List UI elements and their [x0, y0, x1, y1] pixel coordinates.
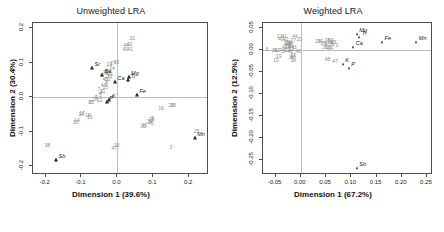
x-tick-label: 0.1: [148, 179, 156, 185]
x-tick-label: 0.2: [184, 179, 192, 185]
x-tick-label: 0.15: [370, 179, 382, 185]
sample-point-label: 12: [97, 97, 103, 103]
element-marker: [90, 66, 94, 70]
y-tick-label: 0.1: [18, 55, 24, 69]
sample-point-label: 31: [129, 35, 135, 41]
element-label: Mn: [197, 131, 205, 137]
sample-point-label: 3: [335, 42, 338, 48]
element-marker: [415, 40, 417, 43]
x-axis-title: Dimension 1 (39.6%): [0, 190, 222, 199]
element-marker: [105, 99, 109, 103]
zero-line-vertical: [301, 23, 302, 173]
chart-title: Weighted LRA: [222, 6, 444, 16]
x-tick: [116, 174, 117, 177]
element-label: Fe: [385, 35, 391, 41]
element-marker: [342, 62, 344, 65]
y-tick: [259, 71, 262, 72]
element-label: Mn: [419, 35, 427, 41]
element-label: Fe: [139, 88, 145, 94]
x-tick: [325, 174, 326, 177]
chart-title: Unweighted LRA: [0, 6, 222, 16]
y-axis-title: Dimension 2 (30.4%): [8, 22, 17, 174]
sample-point-label: 41: [127, 46, 133, 52]
element-marker: [356, 166, 358, 169]
element-label: Ca: [356, 40, 363, 46]
y-tick-label: -0.05: [248, 64, 254, 78]
element-label: Ti: [130, 73, 135, 79]
sample-point-label: 15: [87, 114, 93, 120]
y-tick: [29, 96, 32, 97]
zero-line-vertical: [117, 23, 118, 173]
element-label: Ba: [105, 68, 112, 74]
sample-point-label: 38: [45, 142, 51, 148]
y-tick: [29, 165, 32, 166]
sample-point-label: 6: [266, 46, 269, 52]
element-marker: [348, 67, 350, 70]
x-tick: [376, 174, 377, 177]
x-tick-label: 0.0: [112, 179, 120, 185]
sample-point-label: 46: [148, 120, 154, 126]
zero-line-horizontal: [33, 97, 207, 98]
x-tick: [275, 174, 276, 177]
x-tick-label: 0.20: [395, 179, 407, 185]
sample-point-label: 34: [327, 45, 333, 51]
element-label: Sr: [94, 61, 100, 67]
y-tick-label: 0.2: [18, 20, 24, 34]
y-tick-label: -0.1: [18, 124, 24, 138]
panel-unweighted-lra: Unweighted LRA-0.2-0.10.00.10.2-0.2-0.10…: [0, 0, 222, 232]
sample-point-label: 16: [158, 105, 164, 111]
y-tick: [259, 159, 262, 160]
x-tick-label: 0.25: [420, 179, 432, 185]
y-tick: [259, 49, 262, 50]
sample-point-label: 47: [332, 58, 338, 64]
element-label: P: [109, 95, 113, 101]
y-tick-label: -0.10: [248, 86, 254, 100]
y-tick: [259, 115, 262, 116]
x-tick-label: -0.05: [268, 179, 282, 185]
x-tick: [350, 174, 351, 177]
element-label: Sb: [359, 161, 366, 167]
x-tick-label: 0.00: [294, 179, 306, 185]
sample-point-label: 47: [111, 145, 117, 151]
y-tick-label: 0.05: [248, 20, 254, 34]
x-tick: [426, 174, 427, 177]
element-marker: [126, 78, 130, 82]
y-tick-label: -0.15: [248, 108, 254, 122]
x-tick-label: -0.1: [75, 179, 85, 185]
x-tick: [45, 174, 46, 177]
y-tick: [259, 27, 262, 28]
element-marker: [381, 40, 383, 43]
sample-point-label: 3: [170, 144, 173, 150]
sample-point-label: 20: [297, 36, 303, 42]
sample-point-label: 48: [325, 56, 331, 62]
y-tick: [29, 62, 32, 63]
panel-weighted-lra: Weighted LRA-0.050.000.050.100.150.200.2…: [222, 0, 444, 232]
y-tick-label: -0.2: [18, 158, 24, 172]
y-tick: [259, 93, 262, 94]
x-tick: [300, 174, 301, 177]
element-label: Ca: [117, 75, 124, 81]
x-tick-label: 0.05: [319, 179, 331, 185]
y-tick: [29, 131, 32, 132]
element-label: P: [351, 61, 355, 67]
y-tick-label: -0.20: [248, 130, 254, 144]
x-tick-label: 0.10: [344, 179, 356, 185]
element-marker: [54, 157, 58, 161]
y-tick: [259, 137, 262, 138]
y-axis-title: Dimension 2 (12.5%): [230, 22, 239, 174]
sample-point-label: 38: [290, 57, 296, 63]
x-tick-label: -0.2: [39, 179, 49, 185]
element-marker: [358, 35, 360, 38]
element-marker: [193, 136, 197, 140]
element-marker: [352, 45, 354, 48]
element-marker: [100, 72, 104, 76]
element-marker: [113, 80, 117, 84]
element-label: Sb: [59, 153, 66, 159]
element-label: K: [345, 57, 349, 63]
element-label: Ti: [362, 30, 367, 36]
lra-biplot-figure: Unweighted LRA-0.2-0.10.00.10.2-0.2-0.10…: [0, 0, 444, 232]
sample-point-label: 6: [88, 99, 91, 105]
x-tick: [401, 174, 402, 177]
sample-point-label: 35: [272, 47, 278, 53]
x-tick: [188, 174, 189, 177]
